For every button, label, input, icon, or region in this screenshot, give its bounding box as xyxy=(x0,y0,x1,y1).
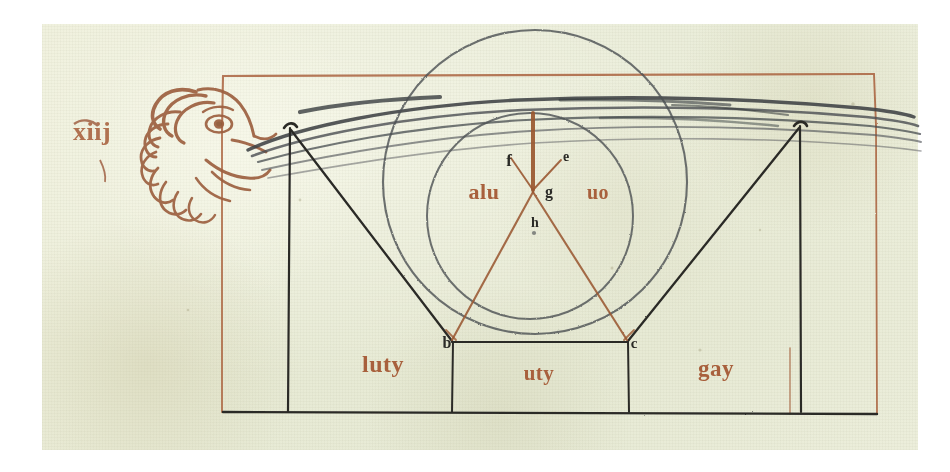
b-drop xyxy=(452,342,453,412)
margin-annotation: xiij xyxy=(73,117,111,182)
label-e: e xyxy=(563,149,569,164)
label-g: g xyxy=(545,183,553,201)
manuscript-page: f e g h b c alu uo luty uty gay xiij xyxy=(0,0,950,472)
label-f: f xyxy=(506,151,512,170)
ray-to-f xyxy=(511,158,533,190)
word-uty: uty xyxy=(524,361,555,385)
word-luty: luty xyxy=(362,351,404,377)
breath-streams xyxy=(248,97,921,178)
label-h: h xyxy=(531,215,539,230)
label-c: c xyxy=(631,335,638,351)
right-oblique xyxy=(628,128,799,341)
c-drop xyxy=(628,342,629,412)
label-h-punctus xyxy=(532,231,536,235)
margin-descender xyxy=(100,160,105,182)
word-gay: gay xyxy=(698,356,734,381)
diagram-layer: f e g h b c alu uo luty uty gay xiij xyxy=(0,0,950,472)
label-b: b xyxy=(443,334,452,351)
word-uo: uo xyxy=(587,181,609,203)
word-alu: alu xyxy=(469,179,500,204)
baseline xyxy=(223,412,877,414)
left-post xyxy=(288,128,290,412)
right-post xyxy=(800,126,801,412)
